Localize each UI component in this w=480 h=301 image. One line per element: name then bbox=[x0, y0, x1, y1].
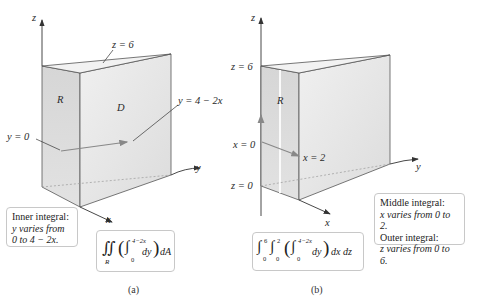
double-integral-sign: ∬ bbox=[102, 238, 116, 257]
y-equals-0-label: y = 0 bbox=[7, 131, 29, 143]
note-b-line-4: z varies from 0 to 6. bbox=[380, 243, 459, 266]
y-axis-label-b: y bbox=[416, 161, 421, 173]
z-equals-6-label-a: z = 6 bbox=[112, 39, 134, 51]
inner-upper-limit: 4−2x bbox=[132, 237, 146, 244]
x-axis-label-a: x bbox=[106, 214, 111, 226]
z-upper-limit: 6 bbox=[264, 237, 267, 244]
face-d-label: D bbox=[117, 102, 125, 114]
left-paren-b: ( bbox=[284, 237, 290, 259]
outer-differential: dA bbox=[160, 246, 171, 257]
face-r-label-b: R bbox=[277, 95, 283, 107]
x-equals-2-label: x = 2 bbox=[303, 152, 325, 164]
inner-integral-sign-b: ∫ bbox=[291, 238, 295, 255]
x-equals-0-label: x = 0 bbox=[233, 139, 255, 151]
x-lower-limit: 0 bbox=[276, 255, 279, 262]
middle-outer-integral-note: Middle integral: x varies from 0 to 2. O… bbox=[374, 193, 465, 245]
left-paren: ( bbox=[118, 237, 124, 259]
inner-lower-limit-b: 0 bbox=[297, 255, 300, 262]
z-lower-limit: 0 bbox=[263, 255, 266, 262]
note-b-line-2: x varies from 0 to 2. bbox=[380, 209, 459, 232]
inner-lower-limit: 0 bbox=[131, 256, 134, 263]
formula-a: ∬ R ( ∫ 4−2x 0 dy ) dA bbox=[96, 230, 175, 272]
note-a-line-2: y varies from bbox=[12, 223, 72, 235]
caption-a: (a) bbox=[128, 284, 139, 295]
note-b-line-3: Outer integral: bbox=[380, 232, 459, 244]
inner-integral-sign: ∫ bbox=[125, 238, 129, 255]
note-a-line-1: Inner integral: bbox=[12, 211, 72, 223]
inner-integral-note: Inner integral: y varies from 0 to 4 − 2… bbox=[6, 207, 78, 247]
region-subscript: R bbox=[105, 258, 109, 266]
formula-b: ∫ 6 0 ∫ 2 0 ( ∫ 4−2x 0 dy ) dx dz bbox=[252, 232, 364, 271]
caption-b: (b) bbox=[311, 284, 323, 295]
inner-differential-b: dy bbox=[312, 246, 321, 257]
x-axis-label-b: x bbox=[325, 217, 330, 229]
outer-differentials: dx dz bbox=[331, 246, 352, 257]
z-equals-0-label: z = 0 bbox=[231, 180, 253, 192]
z-axis-label-a: z bbox=[32, 12, 36, 24]
curve-label-y-4-2x: y = 4 − 2x bbox=[178, 95, 223, 107]
right-paren: ) bbox=[153, 237, 159, 259]
x-upper-limit: 2 bbox=[277, 237, 280, 244]
note-b-line-1: Middle integral: bbox=[380, 197, 459, 209]
face-r-label-a: R bbox=[57, 94, 63, 106]
inner-upper-limit-b: 4−2x bbox=[298, 237, 312, 244]
middle-integral-sign: ∫ bbox=[270, 238, 274, 255]
z-axis-label-b: z bbox=[251, 12, 255, 24]
z-equals-6-label-b: z = 6 bbox=[231, 61, 253, 73]
inner-differential: dy bbox=[142, 246, 151, 257]
y-axis-label-a: y bbox=[196, 162, 201, 174]
right-paren-b: ) bbox=[323, 237, 329, 259]
outer-integral-sign: ∫ bbox=[257, 238, 261, 255]
note-a-line-3: 0 to 4 − 2x. bbox=[12, 234, 72, 246]
panel-b-prism bbox=[261, 18, 418, 216]
